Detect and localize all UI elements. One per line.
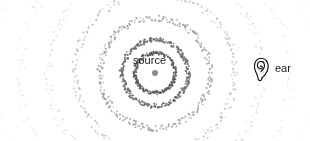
ear-label: ear — [275, 63, 291, 74]
sound-wave-diagram: source ear — [0, 0, 310, 141]
ear-icon — [252, 55, 274, 83]
source-label: source — [133, 55, 166, 66]
